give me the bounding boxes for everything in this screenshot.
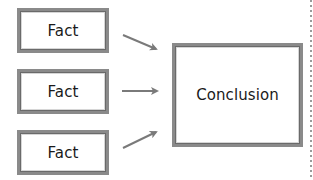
arrow-right-up-icon (123, 132, 156, 148)
arrow-right-down-icon (123, 35, 156, 49)
dotted-divider (310, 0, 312, 180)
arrows (0, 0, 313, 180)
